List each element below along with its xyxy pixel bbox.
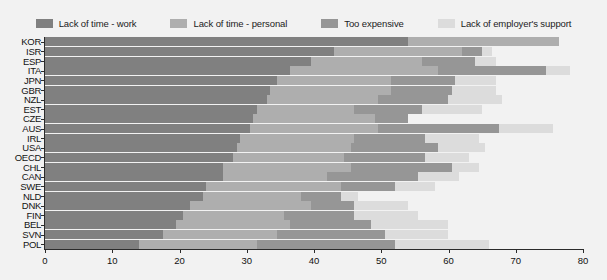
x-tick xyxy=(583,249,584,253)
legend-swatch-expensive xyxy=(321,19,338,28)
bar-segment-dnk-s0 xyxy=(45,201,190,210)
bar-segment-nld-s0 xyxy=(45,192,203,201)
bar-segment-can-s0 xyxy=(45,172,223,181)
y-label-chl: CHL xyxy=(0,163,41,172)
bar-segment-chl-s0 xyxy=(45,163,223,172)
x-label-40: 40 xyxy=(309,255,320,266)
bar-segment-ita-s2 xyxy=(438,66,546,75)
y-label-usa: USA xyxy=(0,143,41,152)
bar-segment-esp-s3 xyxy=(475,57,495,66)
stacked-bar-bel[interactable] xyxy=(45,220,448,229)
bar-segment-gbr-s0 xyxy=(45,86,270,95)
bar-segment-isr-s2 xyxy=(462,47,482,56)
bar-segment-irl-s0 xyxy=(45,134,240,143)
bar-segment-cze-s0 xyxy=(45,114,253,123)
stacked-bar-nzl[interactable] xyxy=(45,95,502,104)
legend-label-personal: Lack of time - personal xyxy=(193,18,287,29)
bar-segment-bel-s2 xyxy=(290,220,371,229)
bar-segment-isr-s1 xyxy=(334,47,462,56)
bar-row xyxy=(45,172,583,181)
bar-segment-svn-s2 xyxy=(277,230,385,239)
bar-segment-jpn-s0 xyxy=(45,76,277,85)
bar-segment-gbr-s3 xyxy=(452,86,496,95)
bar-segment-esp-s1 xyxy=(311,57,422,66)
stacked-bar-aus[interactable] xyxy=(45,124,553,133)
y-label-pol: POL xyxy=(0,240,41,249)
bar-segment-gbr-s1 xyxy=(270,86,391,95)
bar-segment-svn-s3 xyxy=(385,230,449,239)
x-tick xyxy=(516,249,517,253)
legend-item-expensive[interactable]: Too expensive xyxy=(321,18,403,29)
bar-segment-fin-s0 xyxy=(45,211,183,220)
bar-segment-can-s3 xyxy=(418,172,458,181)
stacked-bar-swe[interactable] xyxy=(45,182,435,191)
y-label-fin: FIN xyxy=(0,211,41,220)
stacked-bar-gbr[interactable] xyxy=(45,86,496,95)
stacked-bar-jpn[interactable] xyxy=(45,76,496,85)
bar-segment-ita-s3 xyxy=(546,66,570,75)
bar-row xyxy=(45,95,583,104)
x-tick xyxy=(45,249,46,253)
bar-segment-dnk-s2 xyxy=(311,201,355,210)
legend-item-work[interactable]: Lack of time - work xyxy=(36,18,137,29)
bar-segment-irl-s2 xyxy=(354,134,425,143)
stacked-bar-usa[interactable] xyxy=(45,143,485,152)
bar-row xyxy=(45,66,583,75)
bar-segment-pol-s1 xyxy=(139,240,257,249)
stacked-bar-kor[interactable] xyxy=(45,37,559,46)
stacked-bar-nld[interactable] xyxy=(45,192,358,201)
stacked-bar-chl[interactable] xyxy=(45,163,479,172)
legend-item-personal[interactable]: Lack of time - personal xyxy=(170,18,287,29)
bar-segment-swe-s3 xyxy=(395,182,435,191)
bar-segment-ita-s0 xyxy=(45,66,290,75)
x-label-50: 50 xyxy=(376,255,387,266)
x-tick xyxy=(112,249,113,253)
bar-segment-irl-s1 xyxy=(240,134,354,143)
stacked-bar-dnk[interactable] xyxy=(45,201,408,210)
x-label-10: 10 xyxy=(107,255,118,266)
bar-segment-kor-s0 xyxy=(45,37,408,46)
bar-segment-dnk-s3 xyxy=(354,201,408,210)
stacked-bar-ita[interactable] xyxy=(45,66,570,75)
y-label-swe: SWE xyxy=(0,182,41,191)
y-label-can: CAN xyxy=(0,172,41,181)
bar-row xyxy=(45,220,583,229)
bar-segment-chl-s2 xyxy=(351,163,452,172)
stacked-bar-oecd[interactable] xyxy=(45,153,469,162)
stacked-bar-isr[interactable] xyxy=(45,47,492,56)
bar-row xyxy=(45,201,583,210)
bar-segment-nzl-s1 xyxy=(267,95,378,104)
y-label-est: EST xyxy=(0,105,41,114)
stacked-bar-can[interactable] xyxy=(45,172,459,181)
bar-segment-bel-s1 xyxy=(176,220,290,229)
bar-segment-nld-s3 xyxy=(341,192,358,201)
x-axis-labels: 01020304050607080 xyxy=(0,255,607,269)
x-tick xyxy=(449,249,450,253)
bar-segment-bel-s0 xyxy=(45,220,176,229)
bar-row xyxy=(45,57,583,66)
y-label-aus: AUS xyxy=(0,124,41,133)
bar-segment-esp-s2 xyxy=(422,57,476,66)
x-label-0: 0 xyxy=(42,255,47,266)
stacked-bar-irl[interactable] xyxy=(45,134,479,143)
legend-item-support[interactable]: Lack of employer's support xyxy=(438,18,572,29)
plot-area xyxy=(45,37,583,249)
stacked-bar-est[interactable] xyxy=(45,105,482,114)
bar-row xyxy=(45,211,583,220)
y-label-oecd: OECD xyxy=(0,153,41,162)
x-tick xyxy=(180,249,181,253)
stacked-bar-esp[interactable] xyxy=(45,57,496,66)
bar-segment-jpn-s1 xyxy=(277,76,391,85)
bar-segment-est-s3 xyxy=(422,105,483,114)
bar-segment-esp-s0 xyxy=(45,57,311,66)
bar-row xyxy=(45,143,583,152)
stacked-bar-cze[interactable] xyxy=(45,114,408,123)
bar-row xyxy=(45,192,583,201)
stacked-bar-svn[interactable] xyxy=(45,230,448,239)
stacked-bar-fin[interactable] xyxy=(45,211,418,220)
legend-swatch-support xyxy=(438,19,455,28)
bar-segment-nld-s1 xyxy=(203,192,301,201)
x-tick xyxy=(381,249,382,253)
stacked-bar-pol[interactable] xyxy=(45,240,489,249)
bar-row xyxy=(45,76,583,85)
